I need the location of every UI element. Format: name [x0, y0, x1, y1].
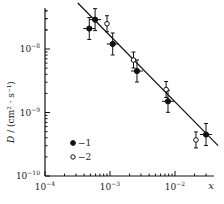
y-tick-label: 10−9	[20, 106, 40, 118]
data-point-series-1	[93, 17, 98, 22]
y-tick-label: 10−10	[16, 169, 40, 181]
data-point-series-1	[165, 99, 170, 104]
x-tick-label: 10−4	[35, 180, 55, 192]
data-point-series-2	[131, 58, 136, 63]
data-point-series-1	[203, 132, 208, 137]
y-axis-label: D / (cm² · s⁻¹)	[6, 81, 16, 144]
data-point-series-1	[110, 41, 115, 46]
x-tick-label: 10−3	[100, 180, 120, 192]
data-point-series-1	[134, 68, 139, 73]
data-point-series-1	[87, 26, 92, 31]
x-axis-label: x	[208, 180, 214, 191]
chart: 10−810−910−1010−410−310−2xD / (cm² · s⁻¹…	[0, 0, 224, 204]
data-point-series-2	[164, 87, 169, 92]
y-tick-label: 10−8	[20, 42, 40, 54]
data-point-series-2	[194, 138, 199, 143]
x-tick-label: 10−2	[165, 180, 185, 192]
legend-label-2: −2	[78, 152, 91, 162]
legend-label-1: −1	[78, 138, 91, 148]
legend-marker-2	[71, 155, 75, 159]
data-point-series-2	[105, 21, 110, 26]
legend-marker-1	[71, 141, 76, 146]
fit-line	[78, 3, 218, 146]
